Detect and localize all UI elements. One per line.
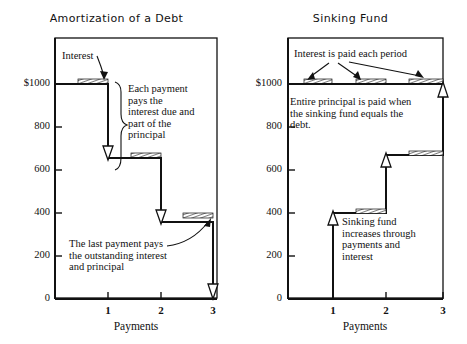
annotation-entire-principal: Entire principal is paid when the sinkin… (290, 96, 450, 131)
annotation-interest-paid: Interest is paid each period (294, 48, 407, 60)
figure-root: Amortization of a Debt (0, 0, 467, 344)
y-tick-label-0: 0 (2, 292, 50, 303)
annotation-interest-label: Interest (62, 50, 94, 62)
y-tick-label-600: 600 (234, 163, 282, 174)
annotation-last-payment: The last payment pays the outstanding in… (69, 238, 189, 273)
y-tick-label-200: 200 (2, 249, 50, 260)
y-tick-label-0: 0 (234, 292, 282, 303)
y-tick-label-400: 400 (2, 206, 50, 217)
y-tick-label-400: 400 (234, 206, 282, 217)
x-tick-label-1: 1 (323, 304, 343, 316)
x-axis-title: Payments (76, 320, 196, 332)
fund-hatch-bands (356, 151, 443, 214)
y-tick-label-600: 600 (2, 163, 50, 174)
panel-amortization: Amortization of a Debt (0, 0, 233, 344)
x-tick-label-3: 3 (433, 304, 453, 316)
y-tick-label-800: 800 (2, 120, 50, 131)
x-axis-title: Payments (305, 320, 425, 332)
y-tick-label-800: 800 (234, 120, 282, 131)
y-tick-label-200: 200 (234, 249, 282, 260)
interest-callout-arrows (310, 62, 420, 77)
annotation-each-payment: Each payment pays the interest due and p… (128, 83, 220, 141)
y-tick-label-1000: $1000 (234, 77, 282, 88)
each-payment-brace (115, 82, 127, 170)
x-tick-label-2: 2 (376, 304, 396, 316)
x-tick-label-2: 2 (151, 304, 171, 316)
x-tick-label-1: 1 (98, 304, 118, 316)
y-ticks (55, 84, 62, 256)
x-tick-label-3: 3 (203, 304, 223, 316)
panel-sinking-fund: Sinking Fund (234, 0, 467, 344)
y-tick-label-1000: $1000 (2, 77, 50, 88)
annotation-sinking-fund: Sinking fund increases through payments … (342, 216, 440, 262)
